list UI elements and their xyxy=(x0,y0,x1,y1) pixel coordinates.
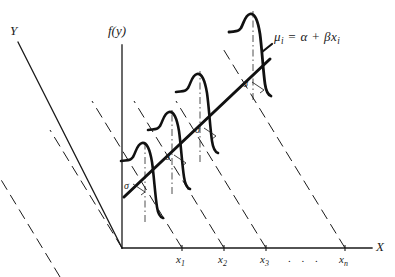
depth-lines-group xyxy=(50,47,345,248)
depth-line-lower-left xyxy=(0,178,60,277)
regression-equation: μi = α + βxi xyxy=(274,30,340,46)
equation-body: = α + βx xyxy=(284,29,337,44)
depth-line-2 xyxy=(176,101,266,248)
sigma-label-3: σ xyxy=(195,125,200,135)
depth-line-4 xyxy=(50,130,122,248)
y-axis-line xyxy=(18,42,122,248)
density-axis-label: f(y) xyxy=(108,24,126,37)
x-tick-label-n-sub: n xyxy=(344,259,348,268)
equation-pointer xyxy=(262,44,272,52)
equation-mu: μ xyxy=(274,29,281,44)
x-tick-label-n: xn xyxy=(339,254,348,267)
depth-line-3 xyxy=(222,47,345,248)
x-tick-label-3-sub: 3 xyxy=(265,259,269,268)
curve-center-lines-group xyxy=(145,11,253,222)
depth-line-0 xyxy=(92,101,182,248)
axes-group xyxy=(18,42,372,248)
x-tick-label-2-sub: 2 xyxy=(223,259,227,268)
x-axis-label: X xyxy=(376,240,384,253)
regression-model-figure: Y f(y) X x1 x2 x3 xn . . . σ σ σ σ μi = … xyxy=(0,0,395,277)
depth-line-extension-group xyxy=(0,178,60,277)
y-axis-label: Y xyxy=(10,24,17,37)
sigma-label-1: σ xyxy=(124,181,129,191)
normal-curve-at-xn xyxy=(229,14,271,96)
x-axis-ellipsis: . . . xyxy=(288,252,322,264)
sigma-label-2: σ xyxy=(165,152,170,162)
equation-x-subscript: i xyxy=(337,36,340,46)
sigma-leader-1 xyxy=(133,184,145,195)
sigma-label-4: σ xyxy=(243,79,248,89)
x-tick-label-1: x1 xyxy=(176,254,185,267)
x-tick-label-2: x2 xyxy=(218,254,227,267)
sigma-leader-2 xyxy=(174,155,186,166)
x-tick-label-3: x3 xyxy=(260,254,269,267)
sigma-leader-4 xyxy=(252,82,264,93)
x-tick-label-1-sub: 1 xyxy=(181,259,185,268)
equation-pointer-group xyxy=(262,44,272,52)
